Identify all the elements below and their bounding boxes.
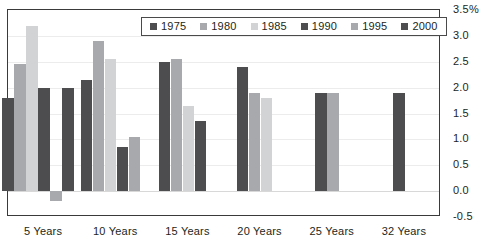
bar	[129, 137, 141, 191]
x-axis-tick-label: 20 Years	[237, 225, 281, 237]
legend-swatch-icon	[401, 23, 408, 30]
y-axis-tick-label: 0.0	[453, 185, 469, 196]
bar	[117, 147, 129, 191]
y-axis-tick-label: 0.5	[453, 159, 469, 170]
bar	[93, 41, 105, 191]
bar	[105, 59, 117, 191]
x-axis-tick-label: 25 Years	[310, 225, 354, 237]
y-axis: 3.5%3.02.52.01.51.00.50.0-0.5	[444, 0, 498, 248]
y-axis-tick-label: -0.5	[453, 211, 473, 222]
y-axis-tick-label: 3.0	[453, 29, 469, 40]
y-axis-tick-label: 2.0	[453, 81, 469, 92]
y-axis-tick-label: 1.0	[453, 133, 469, 144]
bar	[2, 98, 14, 191]
y-axis-tick-label: 2.5	[453, 55, 469, 66]
legend-entry: 1980	[200, 21, 236, 32]
x-axis-tick-label: 15 Years	[165, 225, 209, 237]
legend-swatch-icon	[200, 23, 207, 30]
legend-entry: 1995	[351, 21, 387, 32]
bars-layer	[8, 10, 439, 215]
bar	[14, 64, 26, 191]
legend-entry: 1975	[150, 21, 186, 32]
bar	[159, 62, 171, 191]
bar	[327, 93, 339, 191]
x-axis-tick-label: 5 Years	[24, 225, 62, 237]
legend-label: 1980	[211, 21, 236, 32]
bar	[261, 98, 273, 191]
plot-area	[7, 9, 440, 216]
bar	[237, 67, 249, 191]
legend-swatch-icon	[351, 23, 358, 30]
legend-label: 2000	[412, 21, 437, 32]
legend-entry: 1985	[251, 21, 287, 32]
bar	[195, 121, 207, 191]
legend-entry: 2000	[401, 21, 437, 32]
bar	[183, 106, 195, 191]
bar	[81, 80, 93, 191]
legend-label: 1990	[312, 21, 337, 32]
legend-swatch-icon	[251, 23, 258, 30]
bar	[171, 59, 183, 191]
y-axis-tick-label: 3.5%	[453, 4, 479, 15]
legend-label: 1975	[161, 21, 186, 32]
legend-label: 1995	[362, 21, 387, 32]
bar	[315, 93, 327, 191]
bar-chart: 197519801985199019952000 3.5%3.02.52.01.…	[0, 0, 498, 248]
legend-swatch-icon	[301, 23, 308, 30]
bar	[38, 88, 50, 192]
legend-swatch-icon	[150, 23, 157, 30]
x-axis-tick-label: 32 Years	[382, 225, 426, 237]
bar	[62, 88, 74, 192]
bar	[393, 93, 405, 191]
legend-entry: 1990	[301, 21, 337, 32]
x-axis: 5 Years10 Years15 Years20 Years25 Years3…	[7, 221, 440, 243]
bar	[26, 26, 38, 192]
legend-label: 1985	[262, 21, 287, 32]
x-axis-tick-label: 10 Years	[93, 225, 137, 237]
chart-legend: 197519801985199019952000	[141, 17, 447, 36]
bar	[50, 191, 62, 201]
bar	[249, 93, 261, 191]
y-axis-tick-label: 1.5	[453, 107, 469, 118]
